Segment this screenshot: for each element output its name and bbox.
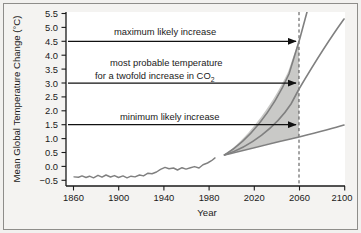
xtick-label-1940: 1940	[153, 192, 174, 203]
annotation-most-probable-line1: most probable temperature	[110, 57, 223, 68]
xtick-label-1980: 1980	[199, 192, 220, 203]
ytick-label-0-0: 0.0	[45, 161, 58, 172]
plot-area-background	[66, 12, 345, 186]
ytick-label-4-5: 4.5	[45, 36, 58, 47]
chart-canvas: 5.5 5.0 4.5 4.0 3.5 3.0 2.5 2.0 1.5 1.0 …	[0, 0, 361, 233]
ytick-label-0-5: 0.5	[45, 147, 58, 158]
ytick-label-1-0: 1.0	[45, 133, 58, 144]
y-tick-marks	[62, 14, 67, 181]
xtick-label-1860: 1860	[63, 192, 84, 203]
ytick-label-1-5: 1.5	[45, 119, 58, 130]
y-axis-label: Mean Global Temperature Change (°C)	[11, 16, 22, 183]
xtick-label-2060: 2060	[289, 192, 310, 203]
annotation-co2-subscript: 2	[211, 76, 215, 83]
ytick-label-3-5: 3.5	[45, 64, 58, 75]
ytick-label-5-0: 5.0	[45, 22, 58, 33]
x-tick-marks	[74, 186, 345, 191]
ytick-label-5-5: 5.5	[45, 8, 58, 19]
ytick-label-2-0: 2.0	[45, 105, 58, 116]
annotation-most-probable-line2: for a twofold increase in CO2	[95, 70, 215, 83]
ytick-label-3-0: 3.0	[45, 78, 58, 89]
ytick-label-minus-0-5: −0.5	[39, 175, 58, 186]
figure-container: 5.5 5.0 4.5 4.0 3.5 3.0 2.5 2.0 1.5 1.0 …	[0, 0, 361, 233]
x-axis-label: Year	[197, 207, 217, 218]
xtick-label-1900: 1900	[108, 192, 129, 203]
annotation-most-probable-line2-text: for a twofold increase in CO	[95, 70, 211, 81]
ytick-label-4-0: 4.0	[45, 50, 58, 61]
ytick-label-2-5: 2.5	[45, 91, 58, 102]
xtick-label-2100: 2100	[332, 192, 353, 203]
xtick-label-2020: 2020	[244, 192, 265, 203]
annotation-minimum-likely-increase: minimum likely increase	[120, 111, 220, 122]
annotation-maximum-likely-increase: maximum likely increase	[114, 26, 216, 37]
